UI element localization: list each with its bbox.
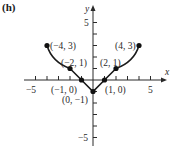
y-axis-arrow-icon xyxy=(91,5,96,11)
x-tick-label-5: 5 xyxy=(148,85,153,95)
point-label-2-1: (2, 1) xyxy=(100,58,121,69)
point-label-1-0: (1, 0) xyxy=(105,85,126,96)
x-axis-label: x xyxy=(164,67,170,77)
point-label-4-3: (4, 3) xyxy=(115,41,136,52)
point-label-0-neg1: (0, −1) xyxy=(62,95,88,106)
graph: x y −5 5 5 −5 (−4, 3) (−2, 1) (−1, 0) (0… xyxy=(0,0,172,150)
point-label-neg2-1: (−2, 1) xyxy=(61,58,87,69)
y-tick-label-neg5: −5 xyxy=(78,133,88,143)
y-axis-label: y xyxy=(84,4,90,14)
x-axis-arrow-icon xyxy=(161,78,167,83)
point-label-neg4-3: (−4, 3) xyxy=(50,41,76,52)
x-tick-label-neg5: −5 xyxy=(26,85,36,95)
y-tick-label-5: 5 xyxy=(84,18,89,28)
